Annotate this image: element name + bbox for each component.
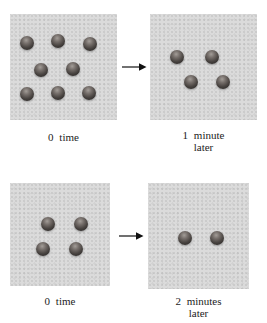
time-label-line: 0 time — [10, 132, 117, 144]
molecule-box-top-left — [10, 14, 117, 120]
molecule-sphere — [210, 231, 224, 245]
molecule-box-bottom-right — [148, 183, 249, 289]
molecule-box-bottom-left — [10, 183, 110, 286]
molecule-sphere — [34, 63, 48, 77]
molecule-sphere — [82, 86, 96, 100]
molecule-sphere — [69, 242, 83, 256]
molecule-sphere — [66, 62, 80, 76]
molecule-sphere — [205, 50, 219, 64]
time-label-bottom-left: 0 time — [10, 296, 110, 308]
molecule-sphere — [36, 242, 50, 256]
time-label-line: 0 time — [10, 296, 110, 308]
time-label-line: 1 minute — [150, 130, 257, 142]
molecule-box-top-right — [150, 14, 257, 120]
molecule-sphere — [20, 87, 34, 101]
molecule-sphere — [74, 217, 88, 231]
time-label-line: later — [148, 308, 249, 320]
molecule-sphere — [178, 231, 192, 245]
time-label-top-left: 0 time — [10, 132, 117, 144]
time-label-line: later — [150, 142, 257, 154]
molecule-sphere — [20, 36, 34, 50]
molecule-sphere — [51, 86, 65, 100]
time-label-line: 2 minutes — [148, 296, 249, 308]
molecule-sphere — [83, 37, 97, 51]
figure-canvas: 0 time 1 minute later 0 time 2 minutes l… — [0, 0, 267, 323]
molecule-sphere — [184, 75, 198, 89]
time-label-top-right: 1 minute later — [150, 130, 257, 153]
molecule-sphere — [41, 217, 55, 231]
right-arrow-icon — [118, 230, 144, 242]
molecule-sphere — [170, 50, 184, 64]
molecule-sphere — [51, 34, 65, 48]
molecule-sphere — [216, 75, 230, 89]
time-label-bottom-right: 2 minutes later — [148, 296, 249, 319]
right-arrow-icon — [121, 61, 147, 73]
